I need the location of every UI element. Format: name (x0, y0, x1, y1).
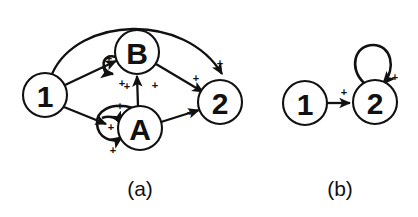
edge-sign-plus: + (392, 71, 398, 83)
edge-b-node2-self-loop (355, 45, 391, 84)
node-2-b[interactable]: 2 (353, 80, 397, 124)
figure-root: 1 B A 2 + + + + + + + + + + (0, 0, 418, 217)
node-label: A (129, 113, 151, 146)
edge-sign-plus: + (152, 79, 158, 91)
edge-sign-plus: + (108, 121, 114, 133)
node-2-a[interactable]: 2 (198, 80, 242, 124)
edge-sign-plus: + (341, 86, 347, 98)
panel-b-caption: (b) (327, 177, 353, 200)
edge-sign-plus: + (217, 57, 223, 69)
node-B-a[interactable]: B (115, 30, 159, 74)
node-label: 2 (212, 87, 229, 120)
edge-sign-plus: + (193, 72, 199, 84)
edge-sign-plus: + (124, 80, 130, 92)
panel-a: 1 B A 2 + + + + + + + + + + (23, 29, 242, 200)
figure-canvas: 1 B A 2 + + + + + + + + + + (0, 0, 418, 217)
edge-nodeA-to-nodeB (137, 76, 138, 106)
node-label: 2 (367, 87, 384, 120)
node-1-a[interactable]: 1 (23, 73, 67, 117)
edge-sign-plus: + (106, 52, 112, 64)
edge-sign-plus: + (117, 100, 123, 112)
panel-a-caption: (a) (127, 177, 153, 200)
node-1-b[interactable]: 1 (283, 81, 327, 125)
panel-b: 1 2 + + (b) (283, 45, 398, 200)
node-label: 1 (37, 80, 54, 113)
edge-sign-plus: + (110, 144, 116, 156)
edge-sign-plus: + (187, 106, 193, 118)
node-label: B (126, 37, 148, 70)
edge-nodeA-to-node2 (161, 110, 199, 122)
node-A-a[interactable]: A (118, 106, 162, 150)
node-label: 1 (297, 88, 314, 121)
